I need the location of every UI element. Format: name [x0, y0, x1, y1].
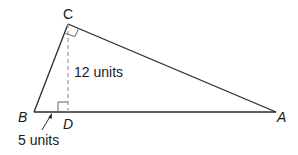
altitude-length-label: 12 units	[74, 64, 123, 80]
side-bc	[34, 24, 68, 112]
right-angle-marker-d	[58, 102, 68, 112]
vertex-label-c: C	[63, 6, 73, 22]
vertex-label-b: B	[18, 109, 27, 125]
vertex-label-a: A	[276, 109, 286, 125]
vertex-label-d: D	[63, 116, 73, 132]
bd-length-label: 5 units	[18, 132, 59, 148]
triangle-diagram: C B D A 12 units 5 units	[0, 0, 298, 155]
